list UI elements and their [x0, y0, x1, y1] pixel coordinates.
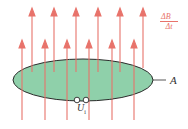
field-change-numerator: ΔB⃗	[160, 12, 178, 22]
area-loop	[13, 59, 153, 101]
field-change-label: ΔB⃗ Δt	[160, 12, 178, 31]
area-label: A	[170, 74, 177, 86]
voltage-subscript: i	[84, 109, 86, 115]
field-change-denominator: Δt	[160, 22, 178, 31]
voltage-label: Ui	[77, 102, 86, 115]
